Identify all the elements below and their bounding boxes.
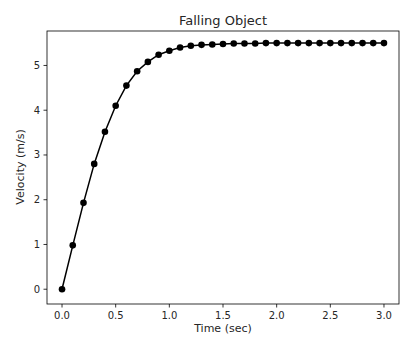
chart-title: Falling Object <box>179 13 267 28</box>
data-point <box>263 40 270 47</box>
data-point <box>284 40 291 47</box>
x-tick-label: 2.5 <box>322 310 338 321</box>
data-point <box>327 40 334 47</box>
data-point <box>370 40 377 47</box>
data-point <box>123 82 130 89</box>
data-point <box>241 40 248 47</box>
data-point <box>145 59 152 66</box>
data-point <box>188 42 195 49</box>
data-point <box>316 40 323 47</box>
data-point <box>112 102 119 109</box>
data-point <box>166 47 173 54</box>
data-point <box>295 40 302 47</box>
data-point <box>252 40 259 47</box>
data-point <box>230 40 237 47</box>
data-point <box>348 40 355 47</box>
data-point <box>209 41 216 48</box>
x-tick-label: 0.0 <box>54 310 70 321</box>
x-tick-label: 2.0 <box>269 310 285 321</box>
data-point <box>220 41 227 48</box>
y-tick-label: 2 <box>34 194 40 205</box>
plot-area <box>47 31 399 304</box>
x-axis: 0.00.51.01.52.02.53.0 <box>54 304 392 321</box>
data-point <box>273 40 280 47</box>
line-chart: Falling Object 0.00.51.01.52.02.53.0 012… <box>0 0 419 350</box>
x-tick-label: 3.0 <box>376 310 392 321</box>
x-axis-label: Time (sec) <box>193 322 252 335</box>
data-point <box>134 68 141 75</box>
y-tick-label: 1 <box>34 239 40 250</box>
data-point <box>80 200 87 207</box>
data-point <box>381 40 388 47</box>
y-tick-label: 3 <box>34 149 40 160</box>
data-point <box>69 242 76 249</box>
y-tick-label: 4 <box>34 105 40 116</box>
data-point <box>359 40 366 47</box>
data-point <box>155 51 162 58</box>
data-point <box>306 40 313 47</box>
x-tick-label: 0.5 <box>108 310 124 321</box>
y-axis: 012345 <box>34 60 47 295</box>
y-axis-label: Velocity (m/s) <box>14 129 27 204</box>
y-tick-label: 0 <box>34 284 40 295</box>
x-tick-label: 1.5 <box>215 310 231 321</box>
data-point <box>59 286 66 293</box>
data-point <box>102 128 109 135</box>
x-tick-label: 1.0 <box>161 310 177 321</box>
data-point <box>338 40 345 47</box>
data-point <box>177 44 184 51</box>
data-point <box>91 161 98 168</box>
y-tick-label: 5 <box>34 60 40 71</box>
data-point <box>198 42 205 49</box>
